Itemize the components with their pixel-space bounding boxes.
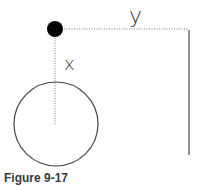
diagram-svg <box>0 0 201 186</box>
point-dot <box>47 21 63 37</box>
label-x: x <box>64 55 75 73</box>
diagram-figure: y x Figure 9-17 <box>0 0 201 186</box>
circle <box>14 82 98 166</box>
label-y: y <box>129 5 142 27</box>
figure-caption: Figure 9-17 <box>4 171 68 185</box>
